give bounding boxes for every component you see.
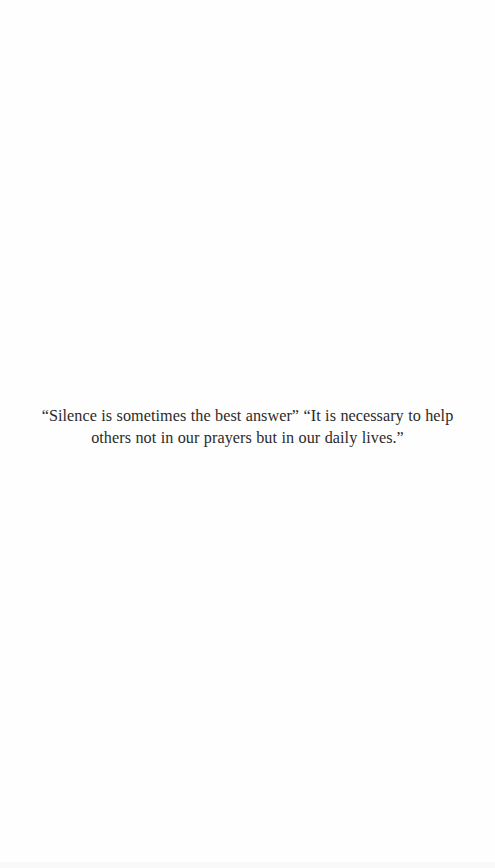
scan-artifact <box>0 862 495 868</box>
page: “Silence is sometimes the best answer” “… <box>0 0 495 868</box>
quote-text: “Silence is sometimes the best answer” “… <box>30 405 465 449</box>
